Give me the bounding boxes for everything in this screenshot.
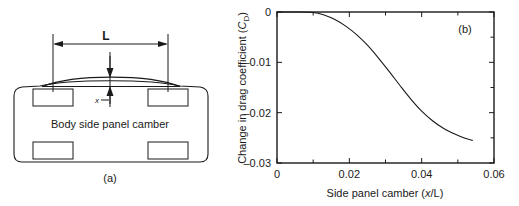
x-tick-label: 0.02 xyxy=(339,168,360,180)
panel-b-chart: 00.020.040.06 0–0.01–0.02–0.03 Side pane… xyxy=(232,0,519,206)
y-axis-title-pre: Change in drag coefficient ( xyxy=(236,29,248,164)
wheel-rear-right xyxy=(148,142,188,159)
car-camber-schematic: L x Body side panel camber (a) xyxy=(0,0,232,206)
y-axis-title: Change in drag coefficient (CD) xyxy=(236,12,251,164)
x-tick-label: 0.06 xyxy=(483,168,504,180)
span-arrowhead-left xyxy=(53,41,63,47)
diagram-title: Body side panel camber xyxy=(51,118,169,130)
x-axis-title-pre: Side panel camber ( xyxy=(327,187,426,199)
panel-a-tag: (a) xyxy=(103,172,116,184)
drag-coefficient-curve xyxy=(277,12,472,140)
x-axis-title: Side panel camber (x/L) xyxy=(327,187,444,199)
x-axis-tick-labels: 00.020.040.06 xyxy=(274,168,505,180)
panel-a-diagram: L x Body side panel camber (a) xyxy=(0,0,232,206)
y-axis-title-italic: C xyxy=(236,22,248,30)
x-tick-label: 0 xyxy=(274,168,280,180)
span-arrowhead-right xyxy=(158,41,168,47)
figure-container: L x Body side panel camber (a) xyxy=(0,0,519,206)
y-axis-title-post: ) xyxy=(236,12,248,16)
panel-b-tag: (b) xyxy=(458,23,471,35)
camber-offset-upper-arrowhead xyxy=(107,68,114,78)
drag-coefficient-chart: 00.020.040.06 0–0.01–0.02–0.03 Side pane… xyxy=(232,0,519,206)
x-axis-title-post: /L) xyxy=(431,187,444,199)
x-axis-minor-ticks xyxy=(313,12,458,163)
span-dimension-label: L xyxy=(102,29,109,43)
y-tick-label: 0 xyxy=(265,6,271,18)
x-tick-label: 0.04 xyxy=(411,168,432,180)
wheel-rear-left xyxy=(33,142,73,159)
